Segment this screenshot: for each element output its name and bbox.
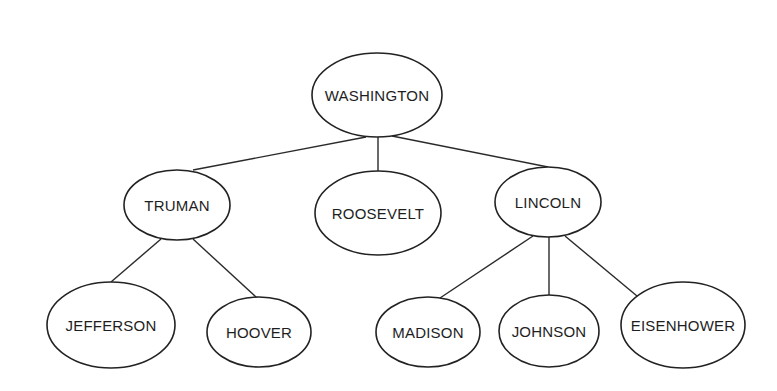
- node-label: JOHNSON: [512, 323, 587, 340]
- node-label: HOOVER: [226, 324, 292, 341]
- edge-washington-lincoln: [392, 136, 548, 167]
- node-label: TRUMAN: [144, 197, 209, 214]
- edge-truman-hoover: [193, 239, 256, 297]
- node-washington: WASHINGTON: [312, 53, 442, 137]
- node-jefferson: JEFFERSON: [47, 282, 175, 368]
- edge-washington-truman: [193, 137, 366, 170]
- node-label: LINCOLN: [515, 194, 581, 211]
- node-label: JEFFERSON: [66, 317, 157, 334]
- node-johnson: JOHNSON: [499, 295, 599, 367]
- tree-diagram: WASHINGTON TRUMAN ROOSEVELT LINCOLN JEFF…: [0, 0, 777, 391]
- edge-lincoln-eisenhower: [565, 236, 637, 296]
- node-label: MADISON: [392, 324, 463, 341]
- node-truman: TRUMAN: [124, 170, 230, 240]
- node-roosevelt: ROOSEVELT: [315, 171, 441, 255]
- node-label: ROOSEVELT: [332, 205, 424, 222]
- node-madison: MADISON: [376, 297, 480, 367]
- node-lincoln: LINCOLN: [495, 167, 601, 237]
- edge-lincoln-madison: [440, 236, 533, 298]
- nodes: WASHINGTON TRUMAN ROOSEVELT LINCOLN JEFF…: [47, 53, 745, 368]
- node-label: EISENHOWER: [631, 317, 736, 334]
- node-eisenhower: EISENHOWER: [621, 282, 745, 368]
- node-hoover: HOOVER: [207, 297, 311, 367]
- edge-truman-jefferson: [111, 239, 161, 282]
- node-label: WASHINGTON: [325, 87, 430, 104]
